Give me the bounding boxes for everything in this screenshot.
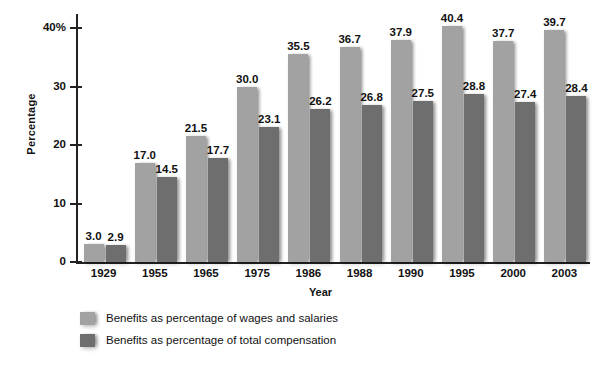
legend-swatch-1 <box>80 312 95 325</box>
legend-swatch-2 <box>80 334 95 347</box>
bar-2000-series2 <box>515 102 535 262</box>
bar-1975-series2 <box>259 127 279 262</box>
y-tick-label-30: 30 <box>22 80 66 92</box>
bar-1986-series1 <box>288 54 308 262</box>
bar-value-label: 40.4 <box>434 12 470 24</box>
legend-label-2: Benefits as percentage of total compensa… <box>106 334 336 346</box>
x-tick-label-1955: 1955 <box>129 267 180 279</box>
plot-area: 3.02.917.014.521.517.730.023.135.526.236… <box>78 14 590 262</box>
bar-value-label: 36.7 <box>332 33 368 45</box>
bar-group: 37.727.4 <box>493 14 535 262</box>
x-tick-label-1986: 1986 <box>283 267 334 279</box>
x-tick-label-2003: 2003 <box>539 267 590 279</box>
bar-group: 36.726.8 <box>340 14 382 262</box>
bar-value-label: 35.5 <box>280 40 316 52</box>
bar-value-label: 27.4 <box>507 88 543 100</box>
bar-value-label: 39.7 <box>536 16 572 28</box>
bar-group: 37.927.5 <box>391 14 433 262</box>
bar-value-label: 26.8 <box>354 91 390 103</box>
bar-1929-series2 <box>106 245 126 262</box>
bar-value-label: 27.5 <box>405 87 441 99</box>
bar-group: 3.02.9 <box>84 14 126 262</box>
bar-value-label: 14.5 <box>149 163 185 175</box>
x-tick-label-1990: 1990 <box>385 267 436 279</box>
chart-legend: Benefits as percentage of wages and sala… <box>80 307 338 351</box>
legend-item-1: Benefits as percentage of wages and sala… <box>80 307 338 329</box>
bar-value-label: 37.9 <box>383 26 419 38</box>
bar-2003-series2 <box>566 96 586 262</box>
bar-2000-series1 <box>493 41 513 262</box>
x-tick-label-1975: 1975 <box>232 267 283 279</box>
bar-1986-series2 <box>310 109 330 262</box>
x-tick-label-1965: 1965 <box>180 267 231 279</box>
y-tick-label-40: 40% <box>22 21 66 33</box>
bar-1990-series1 <box>391 40 411 262</box>
bar-value-label: 37.7 <box>485 27 521 39</box>
y-tick-label-20: 20 <box>22 138 66 150</box>
bar-1965-series2 <box>208 158 228 262</box>
y-tick-label-10: 10 <box>22 197 66 209</box>
bar-1990-series2 <box>413 101 433 262</box>
bar-chart: Percentage 010203040% 3.02.917.014.521.5… <box>0 0 597 366</box>
bar-group: 39.728.4 <box>544 14 586 262</box>
bar-value-label: 23.1 <box>251 113 287 125</box>
bar-1988-series1 <box>340 47 360 262</box>
legend-item-2: Benefits as percentage of total compensa… <box>80 329 338 351</box>
bar-1988-series2 <box>362 105 382 262</box>
bar-1929-series1 <box>84 244 104 262</box>
bar-value-label: 28.4 <box>558 82 594 94</box>
x-axis-title: Year <box>0 286 597 298</box>
bar-value-label: 17.0 <box>127 149 163 161</box>
bar-value-label: 17.7 <box>200 144 236 156</box>
bar-group: 30.023.1 <box>237 14 279 262</box>
bar-group: 40.428.8 <box>442 14 484 262</box>
bar-1955-series1 <box>135 163 155 262</box>
x-tick-label-1929: 1929 <box>78 267 129 279</box>
x-axis-title-text: Year <box>309 286 332 298</box>
bar-value-label: 26.2 <box>302 95 338 107</box>
bar-group: 21.517.7 <box>186 14 228 262</box>
bar-1995-series2 <box>464 94 484 262</box>
bar-1955-series2 <box>157 177 177 262</box>
bar-value-label: 30.0 <box>229 73 265 85</box>
bar-value-label: 2.9 <box>98 231 134 243</box>
bar-value-label: 28.8 <box>456 80 492 92</box>
y-tick-label-0: 0 <box>22 255 66 267</box>
bar-2003-series1 <box>544 30 564 262</box>
bar-value-label: 21.5 <box>178 122 214 134</box>
bar-group: 35.526.2 <box>288 14 330 262</box>
legend-label-1: Benefits as percentage of wages and sala… <box>106 312 338 324</box>
x-tick-label-1995: 1995 <box>436 267 487 279</box>
bar-1995-series1 <box>442 26 462 262</box>
x-tick-label-2000: 2000 <box>488 267 539 279</box>
x-tick-label-1988: 1988 <box>334 267 385 279</box>
x-axis-line <box>76 262 590 264</box>
bar-group: 17.014.5 <box>135 14 177 262</box>
